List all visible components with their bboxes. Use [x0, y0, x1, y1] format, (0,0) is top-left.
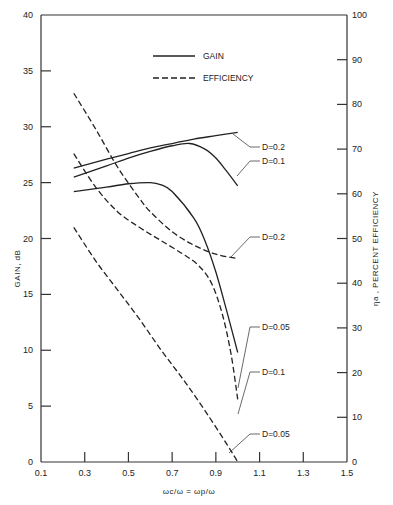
annotation-label: D=0.2: [262, 142, 285, 152]
annotation-leader: [233, 134, 260, 147]
y-tick-label: 0: [28, 457, 33, 467]
legend: GAINEFFICIENCY: [153, 51, 254, 83]
annotations: D=0.2D=0.1D=0.2D=0.05D=0.1D=0.05: [229, 134, 290, 453]
y2-tick-label: 90: [352, 55, 362, 65]
annotation-label: D=0.05: [262, 322, 290, 332]
annotation-leader: [237, 161, 260, 176]
y-tick-label: 10: [23, 345, 33, 355]
curve-gain-d-0-05: [74, 183, 238, 353]
annotation-label: D=0.05: [262, 429, 290, 439]
y-tick-label: 25: [23, 178, 33, 188]
annotation-label: D=0.1: [262, 156, 285, 166]
y-tick-label: 35: [23, 66, 33, 76]
y-tick-label: 20: [23, 234, 33, 244]
curve-efficiency-d-0-2: [74, 93, 238, 258]
y2-tick-label: 20: [352, 368, 362, 378]
x-tick-label: 0.5: [122, 468, 135, 478]
x-tick-label: 0.7: [166, 468, 179, 478]
annotation-leader: [230, 237, 260, 258]
x-tick-label: 0.9: [210, 468, 223, 478]
y2-tick-label: 30: [352, 323, 362, 333]
y-tick-label: 40: [23, 10, 33, 20]
y2-tick-label: 50: [352, 234, 362, 244]
y2-tick-label: 100: [352, 10, 367, 20]
x-tick-label: 1.1: [253, 468, 266, 478]
annotation-leader: [238, 327, 260, 388]
y2-axis-title: ηa , PERCENT EFFICIENCY: [371, 191, 380, 306]
x-tick-label: 0.3: [78, 468, 91, 478]
chart-canvas: 0.10.30.50.70.91.11.31.50510152025303540…: [0, 0, 393, 505]
curve-gain-d-0-1: [74, 143, 238, 186]
annotation-label: D=0.2: [262, 232, 285, 242]
x-axis-title: ωc/ω = ωp/ω: [163, 487, 216, 496]
legend-eff-label: EFFICIENCY: [203, 73, 254, 83]
annotation-label: D=0.1: [262, 367, 285, 377]
y2-tick-label: 10: [352, 412, 362, 422]
y2-tick-label: 0: [352, 457, 357, 467]
legend-gain-label: GAIN: [203, 51, 224, 61]
x-tick-label: 1.3: [297, 468, 310, 478]
y2-tick-label: 60: [352, 189, 362, 199]
y-tick-label: 5: [28, 401, 33, 411]
x-tick-label: 0.1: [35, 468, 48, 478]
y2-tick-label: 80: [352, 99, 362, 109]
axes: 0.10.30.50.70.91.11.31.50510152025303540…: [13, 10, 380, 496]
y-tick-label: 15: [23, 289, 33, 299]
annotation-leader: [238, 372, 260, 414]
curves: [74, 93, 238, 462]
curve-efficiency-d-0-1: [74, 154, 238, 400]
y2-tick-label: 40: [352, 278, 362, 288]
y-tick-label: 30: [23, 122, 33, 132]
annotation-leader: [229, 434, 260, 453]
y-axis-title: GAIN, dB: [13, 250, 22, 288]
y2-tick-label: 70: [352, 144, 362, 154]
x-tick-label: 1.5: [341, 468, 354, 478]
